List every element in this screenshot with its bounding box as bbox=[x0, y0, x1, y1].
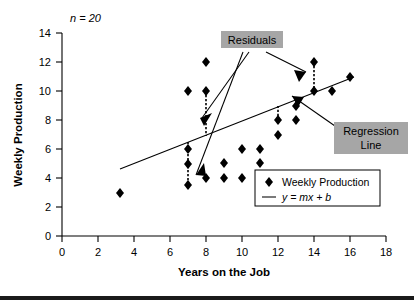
data-point bbox=[220, 173, 228, 183]
x-tick-label: 16 bbox=[344, 246, 356, 258]
x-tick-label: 18 bbox=[380, 246, 392, 258]
x-tick-label: 14 bbox=[308, 246, 320, 258]
y-axis bbox=[56, 33, 62, 236]
y-tick-label: 6 bbox=[45, 143, 51, 155]
chart-canvas: 14 12 10 8 6 4 2 0 0 2 4 6 8 10 12 14 16… bbox=[0, 0, 414, 306]
regression-line bbox=[120, 77, 354, 169]
legend-entry-points-label: Weekly Production bbox=[282, 176, 370, 188]
x-axis-title: Years on the Job bbox=[178, 266, 270, 278]
data-point bbox=[346, 72, 354, 82]
data-point bbox=[184, 86, 192, 96]
x-tick-label: 10 bbox=[236, 246, 248, 258]
x-tick-label: 4 bbox=[131, 246, 137, 258]
y-tick-label: 14 bbox=[39, 27, 51, 39]
data-point bbox=[256, 144, 264, 154]
arrow-head-icon bbox=[196, 163, 206, 176]
x-tick-label: 8 bbox=[203, 246, 209, 258]
regression-callout-label-line2: Line bbox=[361, 139, 382, 151]
data-point bbox=[274, 130, 282, 140]
x-tick-label: 12 bbox=[272, 246, 284, 258]
y-tick-labels: 14 12 10 8 6 4 2 0 bbox=[39, 27, 51, 242]
data-point bbox=[256, 158, 264, 168]
y-tick-label: 4 bbox=[45, 172, 51, 184]
x-tick-labels: 0 2 4 6 8 10 12 14 16 18 bbox=[59, 246, 392, 258]
regression-callout-label-line1: Regression bbox=[343, 125, 399, 137]
y-tick-label: 12 bbox=[39, 56, 51, 68]
residuals-callout-label: Residuals bbox=[228, 34, 277, 46]
data-point bbox=[238, 173, 246, 183]
data-point bbox=[274, 115, 282, 125]
y-tick-label: 0 bbox=[45, 230, 51, 242]
data-point bbox=[116, 188, 124, 198]
data-point bbox=[238, 144, 246, 154]
bottom-divider bbox=[0, 296, 414, 300]
data-point bbox=[202, 86, 210, 96]
scatter-chart-figure: 14 12 10 8 6 4 2 0 0 2 4 6 8 10 12 14 16… bbox=[0, 0, 414, 306]
data-point bbox=[202, 57, 210, 67]
x-axis bbox=[62, 236, 386, 242]
sample-size-annotation: n = 20 bbox=[70, 12, 102, 24]
chart-legend: Weekly Production y = mx + b bbox=[255, 170, 380, 206]
data-point bbox=[184, 180, 192, 190]
y-axis-title: Weekly Production bbox=[12, 83, 24, 186]
x-tick-label: 2 bbox=[95, 246, 101, 258]
y-tick-label: 8 bbox=[45, 114, 51, 126]
data-point bbox=[184, 159, 192, 169]
x-tick-label: 0 bbox=[59, 246, 65, 258]
data-point bbox=[220, 158, 228, 168]
data-point bbox=[328, 86, 336, 96]
data-point bbox=[310, 57, 318, 67]
x-tick-label: 6 bbox=[167, 246, 173, 258]
legend-entry-line-label: y = mx + b bbox=[281, 191, 331, 203]
arrow-head-icon bbox=[294, 70, 306, 82]
data-point bbox=[184, 144, 192, 154]
y-tick-label: 10 bbox=[39, 85, 51, 97]
data-point bbox=[292, 115, 300, 125]
regression-line-annotation: Regression Line bbox=[292, 96, 408, 154]
y-tick-label: 2 bbox=[45, 201, 51, 213]
data-point bbox=[310, 86, 318, 96]
residuals-annotation: Residuals bbox=[196, 31, 306, 176]
